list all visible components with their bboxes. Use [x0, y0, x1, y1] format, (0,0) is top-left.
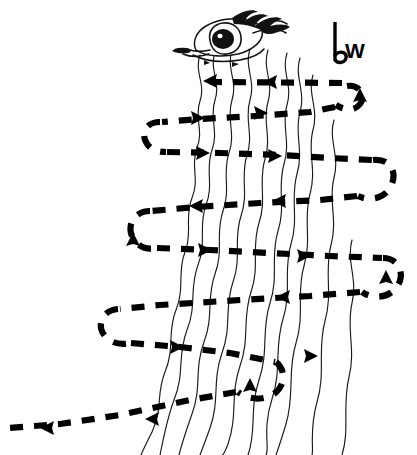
- figure-canvas: [0, 0, 417, 455]
- organism-eye-spot: [212, 29, 234, 49]
- wind-label: W: [345, 40, 365, 61]
- figure-caption: [0, 446, 417, 455]
- figure-root: W: [0, 0, 417, 455]
- organism-eye-highlight: [217, 34, 222, 38]
- figure-background: [0, 0, 417, 455]
